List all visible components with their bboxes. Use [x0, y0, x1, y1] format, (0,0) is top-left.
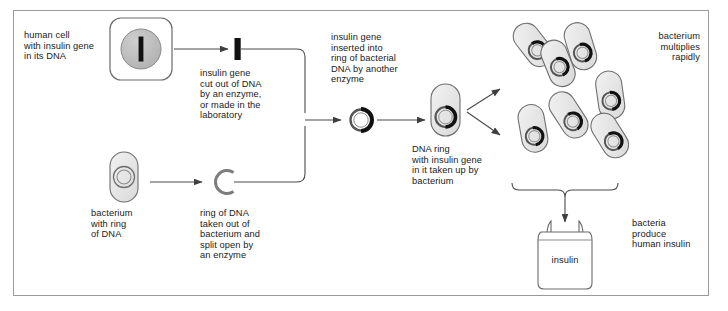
- insulin-gene-bar: [235, 38, 241, 60]
- label-insulin-gene-cut: insulin gene cut out of DNA by an enzyme…: [200, 68, 292, 121]
- arrow-branch-up: [467, 89, 500, 110]
- uptake-bacterium-figure: [431, 84, 460, 136]
- cluster-bacterium: [586, 108, 633, 162]
- label-bacteria-produce-insulin: bacteria produce human insulin: [632, 218, 722, 250]
- bacterium-with-ring-figure: [110, 152, 138, 202]
- label-human-cell: human cell with insulin gene in its DNA: [24, 30, 110, 62]
- bacteria-cluster: [508, 18, 633, 163]
- cluster-bacterium: [544, 87, 593, 143]
- cluster-brace: [512, 183, 618, 197]
- label-bacterium-with-ring: bacterium with ring of DNA: [91, 208, 163, 240]
- cluster-bacterium: [516, 102, 550, 154]
- cluster-bacterium: [594, 69, 626, 120]
- recombinant-dna-ring: [351, 109, 373, 131]
- label-ring-split-open: ring of DNA taken out of bacterium and s…: [200, 208, 290, 261]
- label-gene-inserted: insulin gene inserted into ring of bacte…: [331, 32, 427, 85]
- diagram-canvas: human cell with insulin gene in its DNA …: [0, 0, 728, 311]
- label-ring-taken-up: DNA ring with insulin gene in it taken u…: [412, 144, 514, 186]
- label-bacterium-multiplies: bacterium multiplies rapidly: [618, 31, 700, 63]
- arrow-branch-down: [467, 112, 500, 135]
- split-dna-ring: [216, 171, 234, 194]
- connector-ring-to-merge: [234, 126, 305, 182]
- label-bottle-insulin: insulin: [538, 255, 592, 266]
- human-cell-figure: [110, 18, 172, 80]
